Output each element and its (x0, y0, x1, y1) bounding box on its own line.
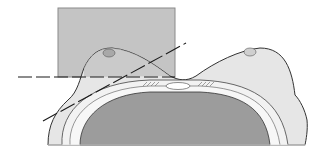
sternum (166, 83, 190, 90)
chest-cross-section-diagram (0, 0, 331, 151)
right-nipple (244, 48, 256, 56)
left-nipple (103, 49, 115, 57)
